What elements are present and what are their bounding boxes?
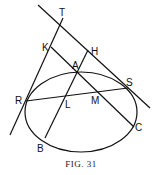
label-r: R [15,95,22,106]
label-t: T [59,7,65,18]
label-l: L [65,99,71,110]
label-m: M [91,95,99,106]
chord-rs [26,88,128,101]
ellipse [25,72,137,152]
figure-caption: FIG. 31 [65,159,97,169]
geometry-figure: T K H A S R L M C B FIG. 31 [0,0,161,175]
label-k: K [42,42,49,53]
label-s: S [126,77,133,88]
label-a: A [72,60,79,71]
line-kc [51,47,134,127]
label-b: B [37,143,44,154]
label-h: H [91,46,98,57]
label-c: C [135,122,142,133]
